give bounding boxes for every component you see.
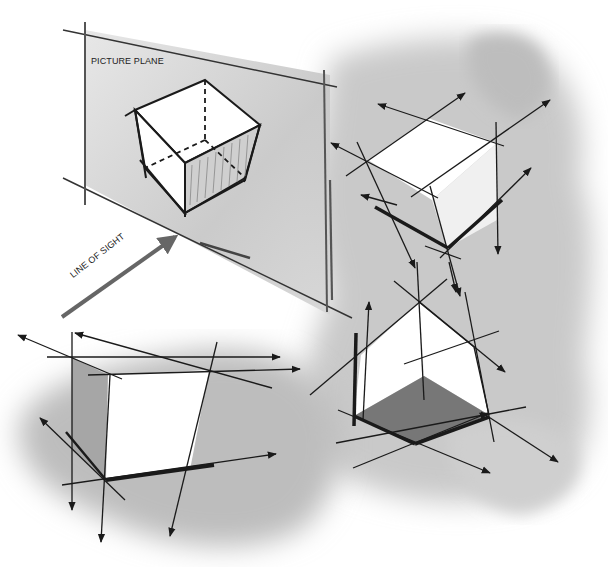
picture-plane-label: PICTURE PLANE (91, 56, 164, 66)
drawing-canvas (0, 0, 608, 582)
picture-plane-panel (62, 22, 352, 318)
perspective-drawing-figure: PICTURE PLANE LINE OF SIGHT (0, 0, 608, 582)
line-of-sight-arrow (62, 237, 175, 317)
